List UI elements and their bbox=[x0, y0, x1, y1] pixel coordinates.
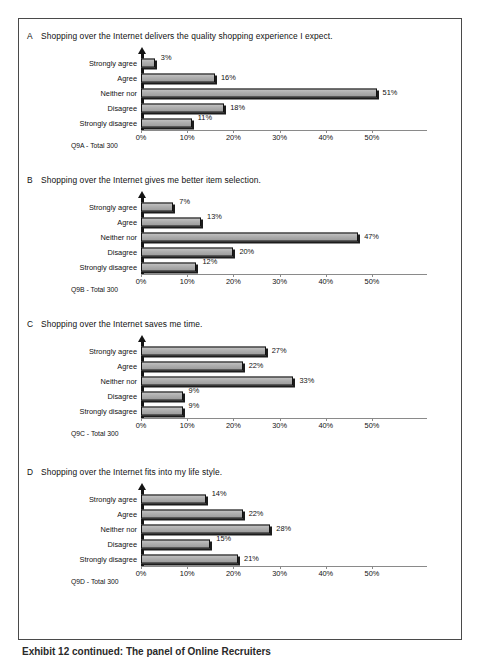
x-axis-tick-label: 20% bbox=[226, 277, 241, 286]
bar: 33% bbox=[141, 376, 293, 385]
bar-value-label: 20% bbox=[239, 247, 254, 256]
bar: 22% bbox=[141, 509, 243, 518]
category-label: Neither nor bbox=[100, 232, 137, 241]
section-letter: D bbox=[27, 467, 41, 477]
x-axis bbox=[141, 274, 427, 275]
x-axis-tick-label: 40% bbox=[318, 421, 333, 430]
bar-face bbox=[141, 361, 243, 370]
bar: 13% bbox=[141, 217, 201, 226]
x-axis-tick-label: 30% bbox=[272, 277, 287, 286]
section-letter: C bbox=[27, 319, 41, 329]
bar-value-label: 22% bbox=[249, 509, 264, 518]
section-heading: AShopping over the Internet delivers the… bbox=[27, 31, 333, 41]
x-axis-tick-label: 10% bbox=[180, 421, 195, 430]
category-label: Strongly agree bbox=[89, 346, 137, 355]
x-axis-tick-label: 50% bbox=[365, 133, 380, 142]
chart-section: BShopping over the Internet gives me bet… bbox=[19, 169, 461, 309]
x-axis-tick-label: 30% bbox=[272, 133, 287, 142]
category-label: Disagree bbox=[107, 103, 137, 112]
section-title: Shopping over the Internet gives me bett… bbox=[41, 175, 261, 185]
section-heading: BShopping over the Internet gives me bet… bbox=[27, 175, 261, 185]
chart-footnote: Q9A - Total 300 bbox=[71, 142, 118, 149]
bar-value-label: 21% bbox=[244, 554, 259, 563]
figure-caption: Exhibit 12 continued: The panel of Onlin… bbox=[22, 646, 271, 657]
bar-face bbox=[141, 58, 155, 67]
category-label: Strongly agree bbox=[89, 58, 137, 67]
bar-face bbox=[141, 217, 201, 226]
bar-value-label: 28% bbox=[276, 524, 291, 533]
y-axis-arrow-icon bbox=[138, 483, 146, 490]
bar-face bbox=[141, 539, 210, 548]
bar-face bbox=[141, 524, 270, 533]
bar: 14% bbox=[141, 494, 206, 503]
category-label: Neither nor bbox=[100, 524, 137, 533]
bar: 11% bbox=[141, 118, 192, 127]
x-axis-tick-label: 30% bbox=[272, 421, 287, 430]
category-label: Strongly disagree bbox=[79, 118, 137, 127]
category-label: Neither nor bbox=[100, 376, 137, 385]
category-label: Strongly agree bbox=[89, 494, 137, 503]
category-label: Strongly disagree bbox=[79, 262, 137, 271]
bar: 9% bbox=[141, 406, 183, 415]
x-axis-tick-label: 10% bbox=[180, 569, 195, 578]
section-title: Shopping over the Internet fits into my … bbox=[41, 467, 222, 477]
bar: 3% bbox=[141, 58, 155, 67]
bar-face bbox=[141, 118, 192, 127]
category-label: Disagree bbox=[107, 539, 137, 548]
bar-value-label: 3% bbox=[161, 53, 172, 62]
x-axis-tick-label: 30% bbox=[272, 569, 287, 578]
bar-value-label: 33% bbox=[299, 376, 314, 385]
bar: 9% bbox=[141, 391, 183, 400]
bar-value-label: 18% bbox=[230, 103, 245, 112]
section-letter: B bbox=[27, 175, 41, 185]
section-title: Shopping over the Internet saves me time… bbox=[41, 319, 202, 329]
category-label: Disagree bbox=[107, 391, 137, 400]
bar: 16% bbox=[141, 73, 215, 82]
bar-face bbox=[141, 73, 215, 82]
x-axis-tick-label: 0% bbox=[136, 421, 147, 430]
x-axis bbox=[141, 418, 427, 419]
bar-value-label: 16% bbox=[221, 73, 236, 82]
x-axis-tick-label: 0% bbox=[136, 133, 147, 142]
bar-face bbox=[141, 406, 183, 415]
bar-face bbox=[141, 346, 266, 355]
bar-value-label: 11% bbox=[198, 113, 212, 122]
x-axis-tick-label: 40% bbox=[318, 277, 333, 286]
x-axis-tick-label: 20% bbox=[226, 421, 241, 430]
bar-face bbox=[141, 262, 196, 271]
category-label: Neither nor bbox=[100, 88, 137, 97]
chart-footnote: Q9C - Total 300 bbox=[71, 430, 118, 437]
x-axis-tick-label: 20% bbox=[226, 133, 241, 142]
bar-value-label: 14% bbox=[212, 489, 227, 498]
bar-face bbox=[141, 88, 377, 97]
section-heading: DShopping over the Internet fits into my… bbox=[27, 467, 222, 477]
x-axis-tick-label: 40% bbox=[318, 133, 333, 142]
bar-value-label: 13% bbox=[207, 212, 222, 221]
document-page-frame: AShopping over the Internet delivers the… bbox=[18, 18, 462, 640]
y-axis-arrow-icon bbox=[138, 191, 146, 198]
category-label: Agree bbox=[117, 217, 137, 226]
x-axis-tick-label: 50% bbox=[365, 569, 380, 578]
bar-face bbox=[141, 202, 173, 211]
category-label: Strongly disagree bbox=[79, 406, 137, 415]
bar-face bbox=[141, 391, 183, 400]
bar-value-label: 51% bbox=[383, 88, 398, 97]
bar: 22% bbox=[141, 361, 243, 370]
bar-value-label: 7% bbox=[179, 197, 190, 206]
bar-value-label: 9% bbox=[189, 401, 200, 410]
bar: 27% bbox=[141, 346, 266, 355]
bar: 51% bbox=[141, 88, 377, 97]
bar: 7% bbox=[141, 202, 173, 211]
bar-value-label: 9% bbox=[189, 386, 200, 395]
bar-value-label: 12% bbox=[202, 257, 217, 266]
bar: 15% bbox=[141, 539, 210, 548]
bar-face bbox=[141, 509, 243, 518]
category-label: Strongly disagree bbox=[79, 554, 137, 563]
category-label: Disagree bbox=[107, 247, 137, 256]
x-axis bbox=[141, 130, 427, 131]
category-label: Agree bbox=[117, 509, 137, 518]
x-axis bbox=[141, 566, 427, 567]
x-axis-tick-label: 20% bbox=[226, 569, 241, 578]
bar-face bbox=[141, 232, 358, 241]
x-axis-tick-label: 50% bbox=[365, 277, 380, 286]
